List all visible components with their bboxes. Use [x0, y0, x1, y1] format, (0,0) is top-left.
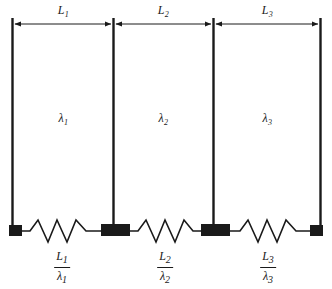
- network-terminal-right: [310, 225, 323, 236]
- resistance-fraction-1-bar: [54, 267, 70, 268]
- resistor-zigzag-3: [230, 220, 310, 242]
- dimension-label-3: L3: [262, 4, 273, 16]
- resistance-fraction-3-bar: [260, 267, 276, 268]
- resistance-1-numerator-sub: 1: [63, 254, 68, 265]
- resistance-fraction-2-bar: [157, 267, 173, 268]
- network-terminal-node-2: [201, 224, 230, 236]
- conductivity-label-1-sub: 1: [64, 118, 68, 127]
- resistance-3-numerator-symbol: L: [262, 249, 269, 263]
- dimension-label-3-symbol: L: [262, 3, 269, 17]
- conductivity-label-3: λ3: [262, 112, 271, 124]
- conductivity-label-1-symbol: λ: [58, 111, 63, 125]
- thermal-resistance-diagram: L1 L2 L3 λ1 λ2 λ3 L1 λ1 L2 λ2 L3: [0, 0, 332, 289]
- dimension-label-1-symbol: L: [58, 3, 65, 17]
- conductivity-label-1: λ1: [58, 112, 67, 124]
- resistance-fraction-3-denominator: λ3: [260, 269, 276, 285]
- conductivity-label-2-sub: 2: [164, 118, 168, 127]
- resistance-fraction-1-numerator: L1: [54, 250, 70, 266]
- diagram-canvas: [0, 0, 332, 289]
- conductivity-label-2: λ2: [158, 112, 167, 124]
- resistance-fraction-2-denominator: λ2: [157, 269, 173, 285]
- dimension-label-2: L2: [158, 4, 169, 16]
- conductivity-label-2-symbol: λ: [158, 111, 163, 125]
- dimension-label-3-sub: 3: [269, 10, 273, 19]
- resistance-fraction-1: L1 λ1: [54, 250, 70, 286]
- dimension-label-1: L1: [58, 4, 69, 16]
- resistance-2-numerator-symbol: L: [159, 249, 166, 263]
- resistance-1-denominator-sub: 1: [62, 275, 67, 286]
- resistance-3-numerator-sub: 3: [269, 254, 274, 265]
- resistance-fraction-2-numerator: L2: [157, 250, 173, 266]
- resistance-fraction-1-denominator: λ1: [54, 269, 70, 285]
- network-terminal-left: [9, 225, 22, 236]
- resistance-fraction-3-numerator: L3: [260, 250, 276, 266]
- conductivity-label-3-sub: 3: [268, 118, 272, 127]
- resistance-1-numerator-symbol: L: [56, 249, 63, 263]
- resistance-3-denominator-sub: 3: [268, 275, 273, 286]
- resistor-zigzag-1: [22, 220, 101, 242]
- resistance-2-denominator-sub: 2: [165, 275, 170, 286]
- dimension-label-1-sub: 1: [65, 10, 69, 19]
- resistance-fraction-3: L3 λ3: [260, 250, 276, 286]
- dimension-label-2-symbol: L: [158, 3, 165, 17]
- dimension-label-2-sub: 2: [165, 10, 169, 19]
- conductivity-label-3-symbol: λ: [262, 111, 267, 125]
- resistance-2-numerator-sub: 2: [166, 254, 171, 265]
- resistor-zigzag-2: [130, 220, 201, 242]
- network-terminal-node-1: [101, 224, 130, 236]
- resistance-fraction-2: L2 λ2: [157, 250, 173, 286]
